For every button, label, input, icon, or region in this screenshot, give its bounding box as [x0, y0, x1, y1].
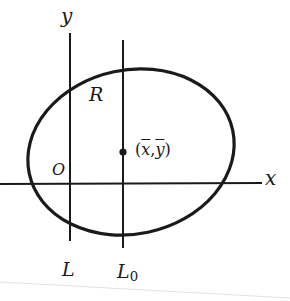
centroid-x-bar: x — [141, 140, 150, 159]
region-centroid-diagram: y R O x (x,y) L L0 — [0, 0, 290, 301]
origin-label: O — [52, 162, 65, 178]
line-L0-label: L0 — [117, 262, 138, 284]
line-L-label: L — [62, 260, 75, 279]
y-axis-label: y — [61, 6, 72, 26]
centroid-point — [119, 148, 126, 155]
page-edge — [0, 282, 290, 298]
centroid-close-paren: ) — [164, 140, 170, 159]
centroid-label: (x,y) — [135, 142, 171, 158]
line-L0-label-subscript: 0 — [130, 269, 138, 284]
x-axis-label: x — [265, 168, 276, 188]
region-boundary-curve — [12, 50, 250, 254]
region-label: R — [89, 85, 103, 104]
line-L0-label-main: L — [117, 260, 130, 282]
